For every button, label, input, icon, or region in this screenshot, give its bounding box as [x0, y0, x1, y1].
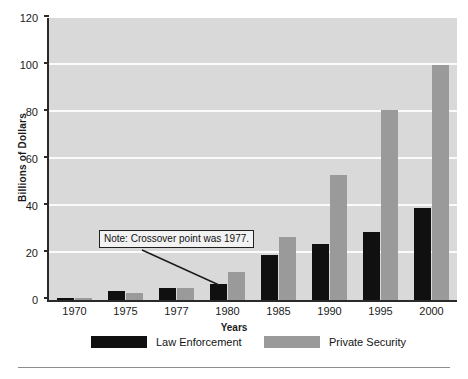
- bar-group: [406, 18, 457, 300]
- y-tick-label: 0: [32, 294, 38, 306]
- x-axis-line: [47, 300, 457, 302]
- bar-group: [202, 18, 253, 300]
- y-tick-mark: [44, 203, 49, 205]
- y-tick-mark: [44, 297, 49, 299]
- bar-chart-figure: Billions of Dollars 020406080100120 1970…: [0, 0, 468, 379]
- y-tick-label: 20: [26, 247, 38, 259]
- bar-private-security: [432, 65, 449, 300]
- x-tick-label: 1990: [317, 305, 341, 317]
- x-tick-label: 1980: [215, 305, 239, 317]
- x-axis-label: Years: [0, 322, 468, 333]
- y-tick-mark: [44, 109, 49, 111]
- bar-private-security: [126, 293, 143, 300]
- y-tick-mark: [44, 250, 49, 252]
- bar-group: [304, 18, 355, 300]
- x-tick-label: 1995: [368, 305, 392, 317]
- bar-private-security: [279, 237, 296, 300]
- bar-law-enforcement: [363, 232, 380, 300]
- y-tick-mark: [44, 62, 49, 64]
- bar-private-security: [177, 288, 194, 300]
- bar-group: [253, 18, 304, 300]
- y-tick-mark: [44, 156, 49, 158]
- legend-swatch-private-security: [264, 336, 320, 348]
- x-tick-label: 1975: [113, 305, 137, 317]
- bar-group: [355, 18, 406, 300]
- x-tick-label: 1977: [164, 305, 188, 317]
- bar-private-security: [330, 175, 347, 300]
- bar-group: [100, 18, 151, 300]
- plot-area: [49, 18, 457, 300]
- plot-background: [49, 18, 457, 300]
- bar-law-enforcement: [261, 255, 278, 300]
- bar-law-enforcement: [312, 244, 329, 300]
- y-tick-label: 120: [20, 12, 38, 24]
- legend-item-law-enforcement: Law Enforcement: [91, 336, 242, 348]
- footer-divider: [18, 367, 450, 368]
- y-tick-mark: [44, 15, 49, 17]
- bar-group: [151, 18, 202, 300]
- bar-law-enforcement: [108, 291, 125, 300]
- y-tick-label: 60: [26, 153, 38, 165]
- legend-swatch-law-enforcement: [91, 336, 147, 348]
- legend-label-law-enforcement: Law Enforcement: [156, 336, 242, 348]
- bar-group: [49, 18, 100, 300]
- legend-item-private-security: Private Security: [264, 336, 406, 348]
- bar-private-security: [381, 110, 398, 300]
- x-tick-label: 2000: [419, 305, 443, 317]
- x-tick-label: 1970: [62, 305, 86, 317]
- y-tick-label: 40: [26, 200, 38, 212]
- bar-law-enforcement: [210, 284, 227, 300]
- bar-law-enforcement: [159, 288, 176, 300]
- bar-law-enforcement: [414, 208, 431, 300]
- annotation-note: Note: Crossover point was 1977.: [99, 230, 254, 248]
- y-tick-label: 80: [26, 106, 38, 118]
- bar-private-security: [228, 272, 245, 300]
- y-tick-label: 100: [20, 59, 38, 71]
- legend-label-private-security: Private Security: [329, 336, 406, 348]
- y-axis-line: [47, 18, 49, 302]
- x-tick-label: 1985: [266, 305, 290, 317]
- chart-legend: Law Enforcement Private Security: [49, 336, 457, 356]
